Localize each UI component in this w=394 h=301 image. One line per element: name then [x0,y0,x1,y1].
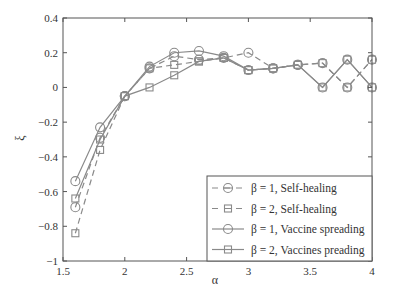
x-tick-label: 2 [122,265,128,277]
data-point-square-marker [97,146,104,153]
y-tick-label: −0.6 [38,186,58,198]
y-tick-label: 0 [53,81,59,93]
y-tick-label: 0.2 [44,47,58,59]
legend-label: β = 2, Vaccines preading [251,244,365,257]
y-tick-label: −0.4 [38,151,58,163]
legend: β = 1, Self-healingβ = 2, Self-healingβ … [207,176,372,261]
y-tick-label: 0.4 [44,12,58,24]
legend-label: β = 1, Vaccine spreading [251,223,365,236]
series-3 [71,46,377,185]
x-tick-label: 2.5 [180,265,194,277]
x-tick-label: 1.5 [56,265,70,277]
series-line [75,51,372,181]
line-chart: 1.522.533.54−1−0.8−0.6−0.4−0.200.20.4 β … [0,0,394,301]
x-tick-label: 4 [369,265,375,277]
y-tick-label: −0.8 [38,220,58,232]
x-tick-label: 3 [246,265,252,277]
legend-label: β = 2, Self-healing [251,203,337,216]
y-tick-label: −1 [46,255,58,267]
x-axis-label: α [212,273,219,287]
y-tick-label: −0.2 [38,116,58,128]
x-tick-label: 3.5 [303,265,317,277]
legend-label: β = 1, Self-healing [251,182,337,195]
y-axis-label: ξ [13,135,27,141]
